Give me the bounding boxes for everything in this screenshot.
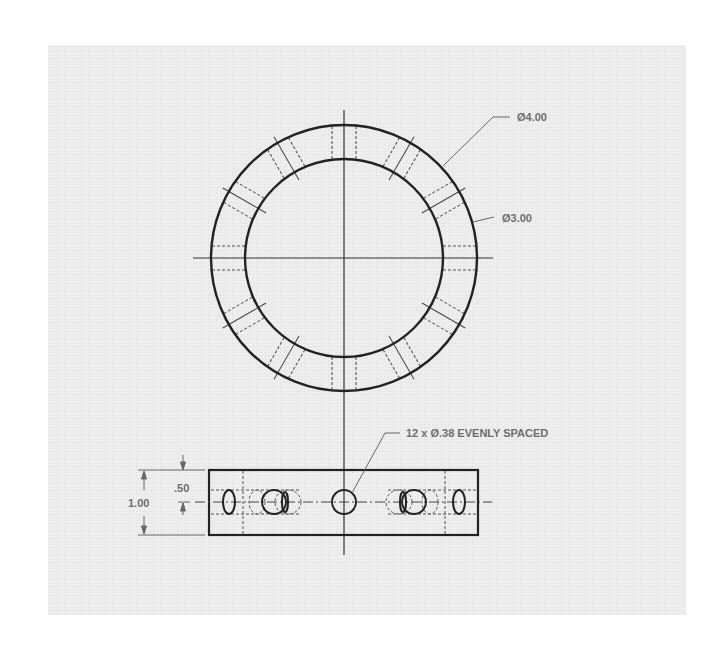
top-view: Ø4.00 Ø3.00 (193, 110, 547, 555)
front-view: 1.00 .50 12 x Ø.38 EVENLY SPACED (128, 427, 548, 535)
inner-diameter-leader (473, 217, 494, 222)
height-dimension-label: 1.00 (128, 497, 149, 509)
hole-center-dimension-label: .50 (174, 482, 189, 494)
outer-diameter-label: Ø4.00 (517, 111, 547, 123)
ring-drawing: Ø4.00 Ø3.00 (0, 0, 723, 653)
hole-callout-label: 12 x Ø.38 EVENLY SPACED (406, 427, 548, 439)
hole-callout-leader (352, 433, 400, 493)
outer-diameter-leader (443, 117, 510, 166)
inner-diameter-label: Ø3.00 (502, 212, 532, 224)
